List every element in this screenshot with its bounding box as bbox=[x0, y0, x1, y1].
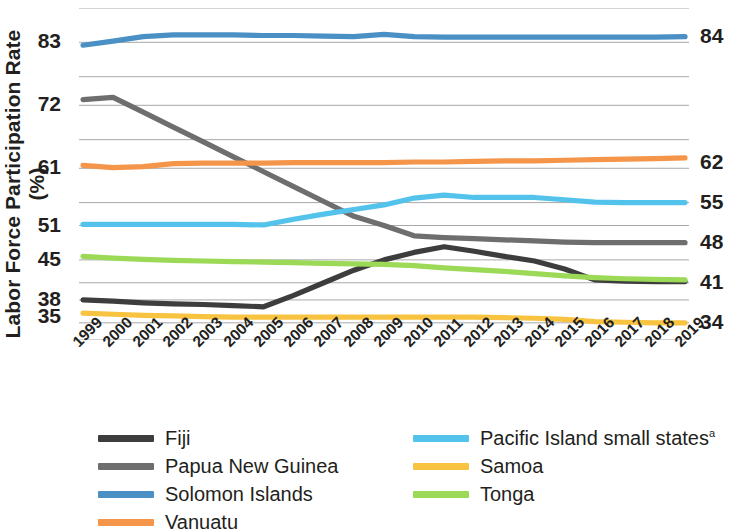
legend-label: Papua New Guinea bbox=[165, 456, 338, 476]
legend-column-left: FijiPapua New GuineaSolomon IslandsVanua… bbox=[98, 424, 338, 532]
legend-label: Solomon Islands bbox=[165, 484, 313, 504]
legend-label: Vanuatu bbox=[165, 512, 238, 532]
y-axis-tick-label: 83 bbox=[1, 30, 61, 51]
y-axis-tick-label-right: 55 bbox=[700, 191, 754, 212]
series-line bbox=[83, 313, 685, 323]
legend-swatch bbox=[413, 491, 469, 498]
legend-item[interactable]: Tonga bbox=[413, 480, 715, 508]
y-axis-tick-label-right: 84 bbox=[700, 25, 754, 46]
x-axis-ticks: 1999200020012002200320042005200620072008… bbox=[0, 338, 755, 410]
legend-item[interactable]: Pacific Island small statesa bbox=[413, 424, 715, 452]
legend-item[interactable]: Fiji bbox=[98, 424, 338, 452]
legend-swatch bbox=[98, 491, 154, 498]
y-axis-tick-label: 51 bbox=[1, 214, 61, 235]
legend-item[interactable]: Solomon Islands bbox=[98, 480, 338, 508]
legend-label: Tonga bbox=[480, 484, 535, 504]
legend-item[interactable]: Samoa bbox=[413, 452, 715, 480]
y-axis-tick-label-right: 62 bbox=[700, 151, 754, 172]
gridlines bbox=[79, 8, 689, 340]
legend-label: Fiji bbox=[165, 428, 191, 448]
y-axis-tick-label: 72 bbox=[1, 93, 61, 114]
y-axis-tick-label: 61 bbox=[1, 156, 61, 177]
legend-item[interactable]: Vanuatu bbox=[98, 508, 338, 532]
series-line bbox=[83, 97, 685, 242]
series-line bbox=[83, 158, 685, 168]
legend-swatch bbox=[98, 463, 154, 470]
legend-label: Pacific Island small statesa bbox=[480, 428, 715, 448]
chart-container: Labor Force Participation Rate (%) 83726… bbox=[0, 0, 755, 532]
legend-column-right: Pacific Island small statesaSamoaTonga bbox=[413, 424, 715, 508]
plot-area bbox=[79, 8, 689, 340]
legend-swatch bbox=[413, 463, 469, 470]
y-axis-tick-label-right: 48 bbox=[700, 231, 754, 252]
chart-svg bbox=[79, 8, 689, 340]
series-line bbox=[83, 195, 685, 225]
legend-swatch bbox=[413, 435, 469, 442]
y-axis-tick-label: 45 bbox=[1, 248, 61, 269]
y-axis-tick-label-right: 34 bbox=[700, 311, 754, 332]
legend-label: Samoa bbox=[480, 456, 543, 476]
legend-swatch bbox=[98, 435, 154, 442]
series-lines bbox=[83, 34, 685, 323]
legend-footnote-marker: a bbox=[709, 427, 715, 439]
y-axis-tick-label: 35 bbox=[1, 305, 61, 326]
legend: FijiPapua New GuineaSolomon IslandsVanua… bbox=[98, 424, 755, 532]
series-line bbox=[83, 34, 685, 45]
legend-swatch bbox=[98, 519, 154, 526]
y-axis-tick-label-right: 41 bbox=[700, 271, 754, 292]
legend-item[interactable]: Papua New Guinea bbox=[98, 452, 338, 480]
